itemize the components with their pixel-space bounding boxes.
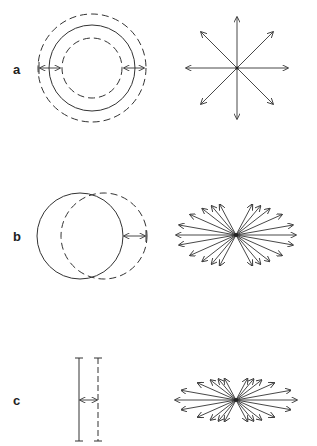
vector-arrow: [236, 379, 254, 400]
panel-a-circles: [38, 14, 146, 122]
panel-c-arrow-bowtie: [175, 378, 297, 421]
vector-arrow: [218, 379, 236, 400]
vector-arrow: [218, 400, 236, 421]
vector-arrow: [212, 235, 237, 264]
vector-arrow: [190, 235, 236, 256]
vector-arrow: [236, 390, 291, 400]
panel-label-a: a: [13, 62, 21, 77]
vector-arrow: [236, 400, 291, 410]
diagram-canvas: a b c: [0, 0, 317, 446]
vector-arrow: [236, 204, 252, 235]
solid-circle: [37, 193, 123, 279]
panel-label-b: b: [13, 229, 21, 244]
panel-b-arrow-bowtie: [176, 204, 296, 266]
inner-dashed-circle: [62, 38, 122, 98]
panel-label-c: c: [13, 393, 20, 408]
vector-arrow: [236, 206, 261, 235]
vector-arrow: [179, 235, 236, 245]
vector-arrow: [220, 204, 236, 235]
panel-a-arrow-star: [186, 17, 288, 119]
vector-arrow: [236, 235, 261, 264]
vector-arrow: [236, 400, 254, 421]
vector-arrow: [237, 68, 273, 104]
vector-arrow: [212, 206, 237, 235]
vector-arrow: [201, 68, 237, 104]
vector-arrow: [181, 390, 236, 400]
vector-arrow: [201, 32, 237, 68]
vector-arrow: [190, 215, 236, 236]
vector-arrow: [181, 400, 236, 410]
vector-arrow: [237, 32, 273, 68]
vector-arrow: [236, 215, 282, 236]
vector-arrow: [236, 225, 293, 235]
vector-arrow: [236, 378, 248, 400]
vector-arrow: [236, 235, 252, 266]
vector-arrow: [179, 225, 236, 235]
panel-c-lines: [75, 358, 102, 441]
vector-arrow: [236, 235, 282, 256]
vector-arrow: [220, 235, 236, 266]
panel-b-circles: [37, 193, 147, 279]
vector-arrow: [236, 400, 248, 422]
vector-arrow: [236, 235, 293, 245]
vector-arrow: [225, 400, 237, 422]
vector-arrow: [225, 378, 237, 400]
